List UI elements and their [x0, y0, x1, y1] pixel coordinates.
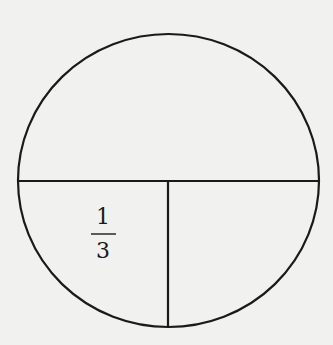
circle-diagram: 1 3: [0, 0, 333, 345]
fraction-numerator: 1: [96, 204, 110, 229]
fraction-label: 1 3: [91, 204, 116, 263]
fraction-denominator: 3: [96, 238, 110, 263]
